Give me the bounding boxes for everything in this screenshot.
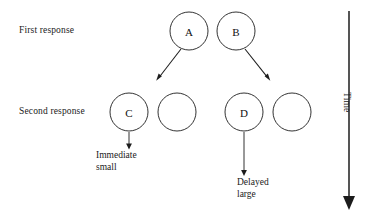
node-label-d: D [240, 107, 248, 119]
outcome-label-delayed-large: Delayed large [237, 177, 269, 200]
node-circle-d-empty[interactable] [273, 93, 311, 131]
node-label-a: A [185, 26, 193, 38]
branch-arrow-b [245, 49, 270, 81]
diagram-canvas: A B C D First response Se [0, 0, 379, 217]
row-label-first-response: First response [19, 25, 74, 35]
outcome-arrow-c [126, 132, 132, 150]
time-axis-label: Time [342, 92, 352, 113]
row-label-second-response: Second response [19, 106, 85, 116]
node-circle-c-empty[interactable] [158, 93, 196, 131]
node-label-c: C [125, 107, 132, 119]
branch-arrow-a [156, 49, 181, 81]
node-label-b: B [232, 26, 239, 38]
outcome-arrow-d [241, 132, 247, 176]
outcome-label-immediate-small: Immediate small [96, 150, 137, 173]
